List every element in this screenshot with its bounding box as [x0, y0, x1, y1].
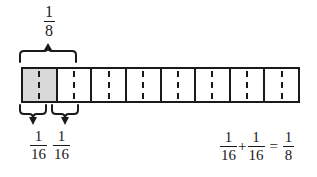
plus-operator: + — [237, 139, 247, 154]
equals-operator: = — [265, 139, 283, 154]
bar-cell — [58, 69, 93, 101]
equation: 1 16 + 1 16 = 1 8 — [203, 130, 311, 164]
top-brace-icon — [18, 42, 80, 64]
fraction-denominator: 8 — [284, 148, 294, 163]
bar-cell-shaded — [23, 69, 58, 101]
equation-term-2: 1 16 — [248, 130, 265, 164]
fraction-numerator: 1 — [44, 4, 54, 20]
equation-term-1: 1 16 — [220, 130, 237, 164]
fraction-one-sixteenth-right: 1 16 — [53, 129, 70, 163]
fraction-bar — [21, 67, 300, 103]
fraction-numerator: 1 — [57, 129, 67, 144]
top-fraction-label: 1 8 — [31, 4, 67, 40]
fraction-denominator: 8 — [44, 23, 54, 39]
fraction-numerator: 1 — [34, 129, 44, 144]
bar-cell — [265, 69, 298, 101]
fraction-one-sixteenth-left: 1 16 — [30, 129, 47, 163]
bar-cell — [127, 69, 162, 101]
bar-cell — [231, 69, 266, 101]
equation-result: 1 8 — [283, 130, 294, 164]
fraction-denominator: 16 — [30, 147, 47, 162]
bar-cell — [92, 69, 127, 101]
fraction-denominator: 16 — [53, 147, 70, 162]
fraction-numerator: 1 — [224, 130, 234, 145]
bottom-braces-icon — [18, 104, 82, 126]
fraction-denominator: 16 — [248, 148, 265, 163]
fraction-bar-diagram: 1 8 1 16 1 16 — [0, 0, 317, 177]
bar-cell — [162, 69, 197, 101]
fraction-numerator: 1 — [251, 130, 261, 145]
fraction-numerator: 1 — [284, 130, 294, 145]
bottom-fraction-labels: 1 16 1 16 — [12, 129, 88, 163]
fraction-denominator: 16 — [220, 148, 237, 163]
fraction-one-eighth: 1 8 — [44, 4, 55, 40]
bar-cell — [196, 69, 231, 101]
